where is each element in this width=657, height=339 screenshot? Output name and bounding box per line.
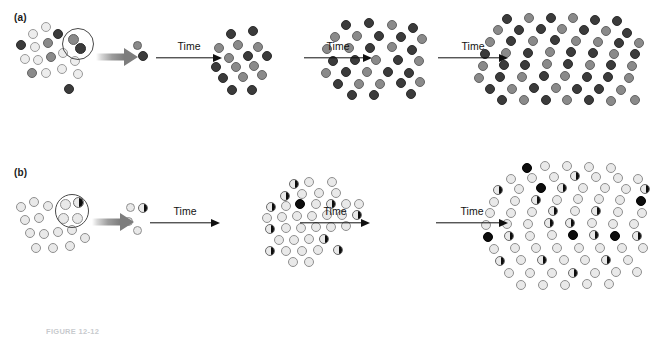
time-arrow-2: Time [304,53,372,63]
cell-open [604,279,614,289]
cell-open [623,255,633,265]
cell-mid [474,73,484,83]
cell-open [615,195,625,205]
cell-open [538,280,548,290]
cell-dark [590,15,600,25]
cell-half [632,231,642,241]
panel-a-selection-ring [62,28,94,60]
arrow-shaft [300,222,362,223]
arrow-head-icon [211,219,220,227]
cell-dark [584,95,594,105]
cell-open [525,231,535,241]
cell-half [531,195,541,205]
cell-mid [493,25,503,35]
cell-half-fill [597,206,601,216]
cell-half-fill [510,231,514,241]
cell-half-fill [595,230,599,240]
cell-open [629,219,639,229]
cell-open [590,268,600,278]
cell-black [610,231,620,241]
cell-open [582,279,592,289]
cell-open [595,243,605,253]
cell-half-fill [571,218,575,228]
cell-open [547,268,557,278]
cell-half-fill [554,206,558,216]
cell-open [594,194,604,204]
cell-half-fill [550,218,554,228]
cell-mid [517,72,527,82]
arrow-head-icon [213,54,222,62]
cell-open [527,207,537,217]
cell-dark [514,25,524,35]
cell-half [601,255,611,265]
cell-open [613,207,623,217]
arrow-shaft [156,57,214,58]
cell-dark [563,59,573,69]
arrow-shaft [436,222,500,223]
cell-mid [634,38,644,48]
arrow-shaft [304,57,364,58]
cell-open [617,243,627,253]
cell-half [557,183,567,193]
cell-open [506,208,516,218]
cell-half-fill [646,184,650,194]
cell-mid [551,83,561,93]
cell-dark [529,83,539,93]
cell-mid [485,37,495,47]
cell-dark [520,60,530,70]
cell-half-fill [574,268,578,278]
cell-dark [572,84,582,94]
panel-b-isolation-arrow [92,213,134,231]
cell-dark [550,35,560,45]
time-arrow-2: Time [300,218,370,228]
arrow-head-icon [499,54,508,62]
cell-open [489,244,499,254]
cell-open [600,183,610,193]
cell-open [611,267,621,277]
cell-open [608,219,618,229]
cell-open [621,184,631,194]
cell-half [565,218,575,228]
cell-mid [571,36,581,46]
gradient-arrow-head [120,213,134,231]
cell-black [536,183,546,193]
time-arrow-label: Time [178,40,201,52]
cell-open [489,197,499,207]
cell-dark [485,84,495,94]
cell-mid [545,47,555,57]
cell-half-fill [563,183,567,193]
arrow-shaft [438,57,500,58]
cell-open [506,174,516,184]
time-arrow-3: Time [438,53,508,63]
cell-dark [614,38,624,48]
cell-dark [603,72,613,82]
cell-open [562,161,572,171]
panel-a-cell-clusters [0,0,657,160]
cell-open [638,243,648,253]
cell-open [559,255,569,265]
cell-black [568,230,578,240]
cell-dark [497,95,507,105]
cell-open [516,255,526,265]
cell-mid [557,24,567,34]
cell-open [632,267,642,277]
cell-mid [616,85,626,95]
cell-half [544,218,554,228]
time-arrow-label: Time [327,40,350,52]
cell-mid [524,13,534,23]
cell-dark [523,48,533,58]
panel-a-isolation-arrow [96,48,138,66]
cell-mid [606,96,616,106]
arrow-head-icon [361,219,370,227]
cell-half-fill [501,256,505,266]
cell-mid [624,73,634,83]
cell-half-fill [638,231,642,241]
gradient-arrow-shaft [92,219,121,226]
stage-4-large-colony [0,155,657,320]
cell-open [574,243,584,253]
cell-half-fill [537,195,541,205]
arrow-head-icon [499,219,508,227]
stage-5-large-colony [0,0,657,160]
time-arrow-label: Time [462,40,485,52]
cell-half [568,268,578,278]
